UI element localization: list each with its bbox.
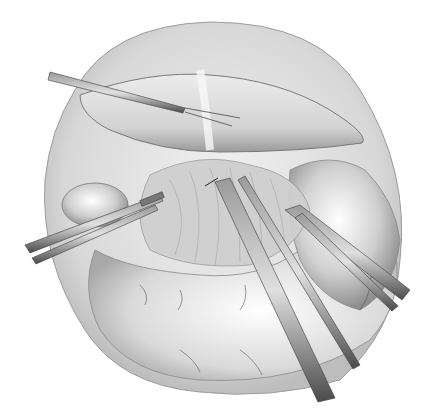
surgical-illustration <box>0 0 433 418</box>
illustration-canvas <box>0 0 433 418</box>
